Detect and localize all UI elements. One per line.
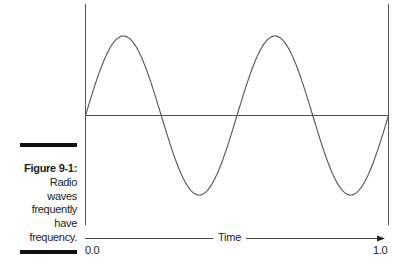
time-axis-arrow-icon [377,236,385,242]
x-tick-start: 0.0 [85,244,99,256]
caption-line: have [24,217,77,231]
caption-line: Radio [24,176,77,190]
x-tick-end: 1.0 [373,244,387,256]
caption-line: frequency. [24,231,77,245]
x-axis-label: Time [213,231,246,243]
caption-bottom-bar [20,250,77,254]
figure-label: Figure 9-1: [24,162,77,176]
caption-line: waves [24,190,77,204]
caption-line: frequently [24,203,77,217]
figure-caption: Figure 9-1: Radio waves frequently have … [24,162,77,245]
caption-top-bar [20,143,77,147]
